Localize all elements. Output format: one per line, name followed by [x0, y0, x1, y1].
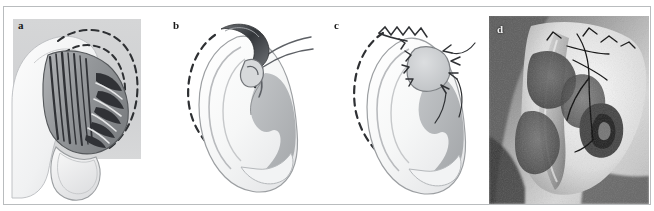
inset-graft — [407, 47, 450, 92]
panel-b-label: b — [173, 20, 179, 31]
panel-d-photograph — [489, 16, 649, 204]
panel-a-drawing — [4, 7, 164, 204]
panel-a-label: a — [18, 20, 24, 31]
figure-container: a — [0, 0, 654, 211]
panel-d: d — [489, 16, 649, 204]
panel-c: c — [321, 7, 487, 204]
panel-b: b — [159, 7, 321, 204]
panel-c-label: c — [334, 20, 339, 31]
panel-b-drawing — [159, 7, 321, 204]
panel-d-label: d — [497, 24, 503, 35]
figure-frame: a — [3, 6, 651, 205]
panel-a: a — [4, 7, 164, 204]
panel-c-drawing — [321, 7, 487, 204]
helix-puncture-site — [240, 59, 263, 87]
reflected-auricular-flap — [43, 51, 128, 154]
inferior-skin-flap — [51, 147, 100, 200]
